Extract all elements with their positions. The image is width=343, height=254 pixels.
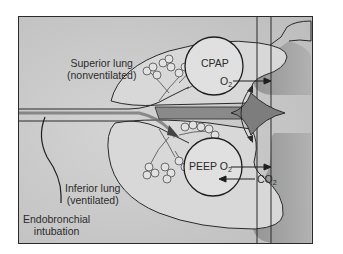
- inferior-lung-label: Inferior lung (ventilated): [65, 182, 120, 206]
- superior-lung-label: Superior lung (nonventilated): [67, 57, 136, 81]
- lung-diagram-illustration: [19, 17, 313, 244]
- superior-lung-label-line1: Superior lung: [67, 57, 136, 69]
- intubation-label-line1: Endobronchial: [23, 213, 90, 225]
- co2-label: CO2: [257, 173, 277, 185]
- intubation-label-line2: intubation: [23, 225, 90, 237]
- superior-lung-label-line2: (nonventilated): [67, 69, 136, 81]
- cpap-o2-label: O2: [220, 75, 232, 87]
- inferior-lung-label-line1: Inferior lung: [65, 182, 120, 194]
- diagram-frame: Superior lung (nonventilated) Inferior l…: [18, 16, 313, 244]
- peep-o2-label: PEEP O2: [189, 160, 232, 172]
- intubation-label: Endobronchial intubation: [23, 213, 90, 237]
- inferior-lung-label-line2: (ventilated): [65, 194, 120, 206]
- cpap-label: CPAP: [201, 57, 229, 69]
